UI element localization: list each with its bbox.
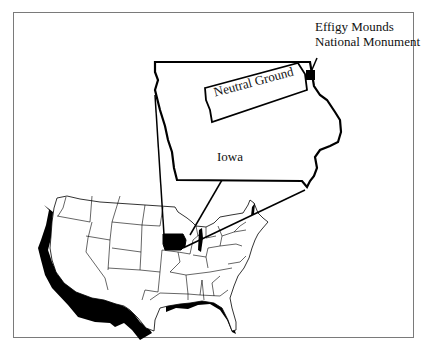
- monument-label-line2: National Monument: [315, 34, 420, 49]
- monument-marker: [306, 70, 315, 80]
- iowa-label: Iowa: [217, 149, 243, 164]
- monument-label: Effigy Mounds National Monument: [315, 19, 420, 49]
- monument-label-line1: Effigy Mounds: [315, 19, 420, 34]
- iowa-highlight: [163, 234, 186, 250]
- map-canvas: [0, 0, 427, 350]
